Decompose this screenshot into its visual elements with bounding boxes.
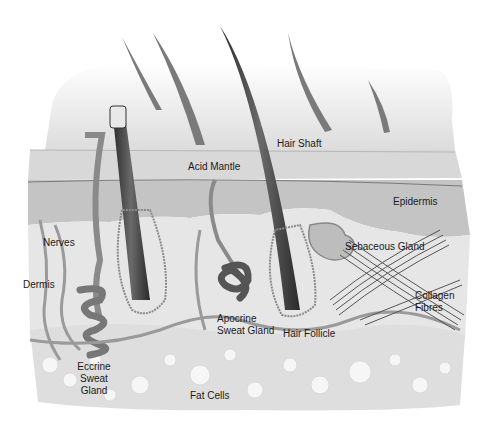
label-apocrine-sweat-gland: Apocrine Sweat Gland bbox=[217, 313, 274, 337]
label-hair-shaft: Hair Shaft bbox=[277, 138, 321, 150]
acid-mantle-layer bbox=[28, 150, 462, 180]
label-epidermis: Epidermis bbox=[393, 196, 437, 208]
label-dermis: Dermis bbox=[23, 279, 55, 291]
label-acid-mantle: Acid Mantle bbox=[188, 161, 240, 173]
label-sebaceous-gland: Sebaceous Gland bbox=[345, 241, 425, 253]
label-nerves: Nerves bbox=[43, 237, 75, 249]
label-collagen-fibres: Collagen Fibres bbox=[415, 290, 454, 314]
label-eccrine-sweat-gland: Eccrine Sweat Gland bbox=[74, 361, 114, 397]
label-fat-cells: Fat Cells bbox=[190, 390, 229, 402]
label-hair-follicle: Hair Follicle bbox=[283, 328, 335, 340]
